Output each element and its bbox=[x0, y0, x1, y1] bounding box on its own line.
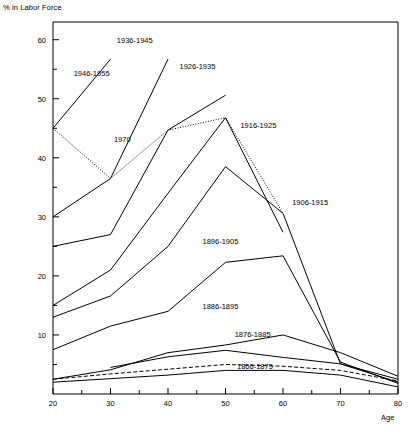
series-label-1896-1905: 1896-1905 bbox=[203, 237, 239, 246]
axis-tick-labels: 10203040506020304050607080 bbox=[38, 36, 403, 408]
series-inline-labels: 19701946-19551936-19451926-19351916-1925… bbox=[74, 36, 328, 371]
series-label-1866-1875: 1866-1875 bbox=[237, 362, 273, 371]
x-tick-label: 60 bbox=[279, 399, 287, 408]
series-line-1970 bbox=[53, 118, 283, 214]
series-label-1916-1925: 1916-1925 bbox=[240, 121, 276, 130]
series-label-1886-1895: 1886-1895 bbox=[203, 302, 239, 311]
x-tick-label: 70 bbox=[336, 399, 344, 408]
series-line-lowest-unlabeled bbox=[53, 370, 398, 387]
series-label-1946-1955: 1946-1955 bbox=[74, 69, 110, 78]
series-line-1936-1945 bbox=[53, 59, 168, 217]
series-line-1896-1905 bbox=[53, 256, 398, 384]
y-tick-label: 50 bbox=[38, 95, 46, 104]
y-tick-label: 10 bbox=[38, 331, 46, 340]
x-tick-label: 40 bbox=[164, 399, 172, 408]
series-label-1926-1935: 1926-1935 bbox=[180, 62, 216, 71]
series-label-1906-1915: 1906-1915 bbox=[292, 198, 328, 207]
y-tick-label: 60 bbox=[38, 36, 46, 45]
series-label-1970: 1970 bbox=[114, 135, 131, 144]
axis-ticks bbox=[53, 40, 398, 394]
series-label-1936-1945: 1936-1945 bbox=[117, 36, 153, 45]
y-tick-label: 30 bbox=[38, 213, 46, 222]
data-series-lines bbox=[53, 59, 398, 387]
y-tick-label: 20 bbox=[38, 272, 46, 281]
line-chart-plot: 10203040506020304050607080 19701946-1955… bbox=[0, 0, 418, 437]
x-tick-label: 20 bbox=[49, 399, 57, 408]
y-tick-label: 40 bbox=[38, 154, 46, 163]
series-line-1916-1925 bbox=[53, 118, 283, 306]
x-tick-label: 80 bbox=[394, 399, 402, 408]
chart-container: % in Labor Force Age 1020304050602030405… bbox=[0, 0, 418, 437]
x-tick-label: 30 bbox=[106, 399, 114, 408]
series-line-1886-1895 bbox=[53, 335, 398, 379]
series-label-1876-1885: 1876-1885 bbox=[235, 330, 271, 339]
x-tick-label: 50 bbox=[221, 399, 229, 408]
